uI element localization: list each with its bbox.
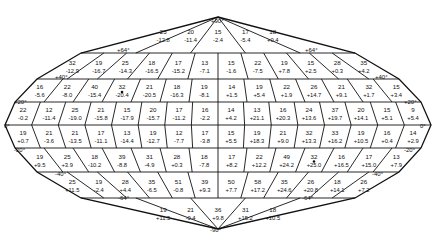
label-equator-left: 0°: [4, 123, 10, 129]
meridian-line: [309, 172, 338, 198]
meridian-line: [189, 79, 192, 102]
cell-value: -8.8: [117, 162, 127, 168]
cell-count: 14: [228, 83, 235, 90]
sky-map-diagram: 23-12.820-11.415-2.417-5.418+0.432-12.91…: [0, 0, 435, 244]
grid-cell: 18-16.3: [170, 83, 183, 98]
cell-value: +21.1: [250, 115, 265, 121]
meridian-line: [85, 102, 91, 125]
grid-cell: 19+0.7: [17, 129, 28, 144]
meridian-line: [191, 125, 192, 148]
cell-count: 32: [365, 83, 372, 90]
grid-cell: 32-20.4: [115, 83, 129, 98]
cell-count: 13: [254, 106, 261, 113]
cell-count: 28: [173, 153, 180, 160]
cell-value: -6.5: [147, 187, 157, 193]
grid-cell: 22+12.2: [252, 153, 267, 168]
cell-value: -12.9: [66, 68, 79, 74]
grid-cell: 15+5.1: [381, 106, 392, 121]
grid-cell: 19+9.5: [34, 153, 45, 168]
cell-value: -15.4: [88, 92, 102, 98]
grid-cell: 15-17.9: [120, 106, 133, 121]
cell-count: 13: [393, 153, 400, 160]
cell-count: 25: [72, 106, 79, 113]
cell-value: +9.3: [199, 187, 210, 193]
latitude-labels: +90° +64° +64° +40° +40° +20° +20° 0° 0°…: [4, 18, 426, 233]
marker-dot: [121, 91, 124, 94]
grid-cell: 13-14.4: [120, 129, 134, 144]
cell-count: 21: [146, 83, 153, 90]
cell-count: 15: [393, 83, 400, 90]
cell-value: -20.5: [143, 92, 156, 98]
meridian-line: [296, 79, 305, 102]
meridian-line: [165, 102, 168, 125]
cell-value: -0.2: [18, 115, 28, 121]
cell-count: 19: [20, 129, 27, 136]
grid-cell: 18-16.5: [145, 59, 158, 74]
cell-value: -2.2: [200, 115, 210, 121]
grid-cell: 12-11.4: [43, 106, 57, 121]
grid-cell: 58+17.2: [250, 178, 265, 193]
grid-cell: 14+4.2: [225, 106, 236, 121]
cell-count: 22: [64, 83, 71, 90]
cell-value: -3.6: [44, 138, 54, 144]
meridian-line: [269, 125, 272, 148]
grid-cell: 28+0.3: [171, 153, 182, 168]
label-south-40-left: -40°: [55, 171, 67, 177]
cell-value: +8.2: [226, 162, 237, 168]
cell-value: -3.8: [200, 138, 210, 144]
grid-cell: 13-7.1: [200, 59, 210, 74]
grid-cell: 24+13.6: [302, 106, 317, 121]
meridian-line: [44, 79, 63, 102]
label-north-40-left: +40°: [55, 74, 68, 80]
cell-value: +16.5: [334, 162, 349, 168]
cell-count: 17: [365, 153, 372, 160]
grid-cell: 17-11.2: [173, 106, 186, 121]
grid-cell: 25+3.9: [61, 153, 72, 168]
cell-count: 17: [175, 59, 182, 66]
grid-cell: 13+21.1: [250, 106, 265, 121]
label-south-20-left: -20°: [14, 147, 26, 153]
grid-cell: 17-11.1: [95, 129, 108, 144]
cell-value: -7.7: [174, 138, 184, 144]
cell-count: 17: [98, 129, 105, 136]
grid-cell: 21+9.1: [336, 83, 347, 98]
cell-count: 17: [176, 106, 183, 113]
label-north-20-left: +20°: [14, 99, 27, 105]
meridian-line: [320, 102, 325, 125]
grid-cell: 14+1.5: [226, 83, 237, 98]
cell-count: 32: [119, 83, 126, 90]
cell-count: 35: [360, 59, 367, 66]
meridian-line: [112, 125, 117, 148]
grid-cell: 17-15.2: [172, 59, 185, 74]
grid-cell: 15+2.5: [305, 59, 316, 74]
meridian-line: [32, 102, 41, 125]
cell-value: -17.9: [120, 115, 133, 121]
cell-count: 32: [311, 153, 318, 160]
cell-count: 19: [201, 83, 208, 90]
meridian-line: [131, 148, 140, 172]
cell-value: +0.3: [171, 162, 182, 168]
grid-cell: 18+14.1: [330, 178, 345, 193]
cell-count: 19: [150, 129, 157, 136]
cell-count: 15: [228, 59, 235, 66]
cell-value: +13.3: [302, 138, 317, 144]
meridian-line: [270, 148, 276, 172]
meridian-line: [321, 148, 334, 172]
cell-value: +13.6: [302, 115, 317, 121]
label-north-20-right: +20°: [404, 99, 417, 105]
meridian-line: [158, 53, 173, 79]
grid-cell: 22-7.5: [253, 59, 263, 74]
cell-value: -10.2: [88, 162, 101, 168]
label-north-64-left: +64°: [117, 47, 130, 53]
cell-value: -11.4: [43, 115, 57, 121]
grid-cell: 25+11.5: [65, 178, 79, 193]
cell-count: 15: [215, 28, 222, 35]
cell-count: 18: [201, 153, 208, 160]
meridian-line: [296, 148, 305, 172]
grid-cell: 35-6.5: [147, 178, 157, 193]
cell-value: -7.8: [199, 162, 209, 168]
meridian-line: [244, 148, 247, 172]
cell-value: +19.7: [328, 115, 343, 121]
grid-cell: 21-13.5: [68, 129, 81, 144]
meridian-line: [321, 79, 334, 102]
